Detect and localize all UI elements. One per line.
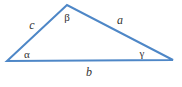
side-label-c: c	[29, 19, 34, 31]
triangle-outline	[7, 5, 173, 61]
angle-label-gamma: γ	[140, 48, 145, 59]
angle-label-beta: β	[64, 12, 70, 23]
side-label-b: b	[86, 66, 92, 78]
angle-label-alpha: α	[24, 49, 30, 60]
side-label-a: a	[117, 14, 123, 26]
triangle-diagram: c β a α γ b	[0, 0, 182, 87]
